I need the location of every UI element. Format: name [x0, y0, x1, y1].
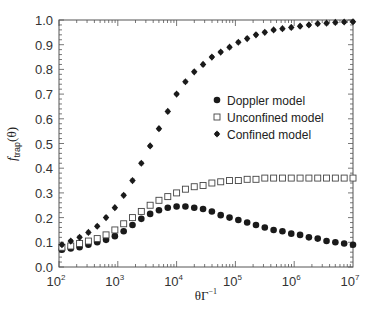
circle-marker [279, 228, 286, 235]
square-marker [324, 175, 330, 181]
square-marker [191, 184, 197, 190]
circle-marker [226, 214, 233, 221]
series-confined-model [59, 18, 357, 248]
diamond-marker [129, 177, 135, 184]
square-marker [227, 178, 233, 184]
diamond-marker [156, 125, 162, 132]
circle-marker [262, 224, 269, 231]
chart: 0.00.10.20.30.40.50.60.70.80.91.01021031… [0, 0, 371, 313]
diamond-marker [226, 44, 232, 51]
x-tick-label: 102 [47, 273, 66, 289]
circle-marker [253, 222, 260, 229]
y-tick-label: 0.0 [35, 260, 53, 275]
axes: 0.00.10.20.30.40.50.60.70.80.91.01021031… [35, 13, 360, 289]
x-tick-label: 104 [164, 273, 183, 289]
diamond-marker [217, 49, 223, 56]
x-tick-label: 106 [282, 273, 301, 289]
circle-marker [332, 239, 339, 246]
y-tick-label: 0.1 [35, 235, 53, 250]
y-axis-title: ftrap(θ) [4, 127, 22, 161]
data-points [59, 18, 357, 253]
circle-marker [288, 230, 295, 237]
circle-marker [270, 227, 277, 234]
diamond-marker [297, 23, 303, 30]
square-marker [271, 175, 277, 181]
circle-marker [147, 211, 154, 218]
diamond-marker [270, 26, 276, 33]
diamond-marker [76, 234, 82, 241]
circle-marker [323, 238, 330, 245]
square-marker [103, 232, 109, 238]
diamond-marker [279, 25, 285, 32]
circle-marker [314, 235, 321, 242]
y-tick-label: 0.7 [35, 87, 53, 102]
square-marker [112, 227, 118, 233]
y-tick-label: 0.5 [35, 137, 53, 152]
square-marker [147, 202, 153, 208]
circle-marker [156, 207, 163, 214]
diamond-marker [85, 229, 91, 236]
square-marker [350, 175, 356, 181]
y-tick-label: 0.6 [35, 112, 53, 127]
circle-marker [164, 204, 171, 211]
square-marker [174, 190, 180, 196]
diamond-marker [253, 31, 259, 38]
plot-frame [59, 20, 353, 267]
diamond-marker [350, 18, 356, 25]
circle-marker [341, 240, 348, 247]
legend-label: Doppler model [227, 94, 305, 108]
square-marker [253, 176, 259, 182]
y-tick-label: 0.9 [35, 38, 53, 53]
circle-marker [200, 206, 207, 213]
legend-label: Confined model [227, 128, 311, 142]
legend-item: Unconfined model [214, 111, 324, 125]
diamond-marker [147, 142, 153, 149]
circle-marker [173, 203, 180, 210]
square-marker [235, 178, 241, 184]
y-tick-label: 1.0 [35, 13, 53, 28]
y-tick-label: 0.3 [35, 186, 53, 201]
legend-item: Confined model [214, 128, 311, 142]
diamond-marker [314, 20, 320, 27]
circle-marker [120, 228, 127, 235]
square-marker [165, 194, 171, 200]
legend-item: Doppler model [214, 94, 305, 108]
diamond-marker [103, 214, 109, 221]
diamond-marker [200, 61, 206, 68]
square-marker [332, 175, 338, 181]
diamond-marker [165, 108, 171, 115]
square-marker [315, 175, 321, 181]
square-marker [297, 175, 303, 181]
diamond-marker [288, 24, 294, 31]
diamond-marker [138, 160, 144, 167]
legend: Doppler modelUnconfined modelConfined mo… [214, 94, 324, 142]
circle-marker [214, 97, 221, 104]
square-marker [262, 175, 268, 181]
square-marker [138, 208, 144, 214]
y-tick-label: 0.8 [35, 62, 53, 77]
diamond-marker [182, 78, 188, 85]
square-marker [341, 175, 347, 181]
square-marker [77, 241, 83, 247]
diamond-marker [341, 18, 347, 25]
x-axis-title: θΓ−1 [195, 287, 217, 303]
diamond-marker [262, 29, 268, 36]
circle-marker [129, 222, 136, 229]
diamond-marker [306, 21, 312, 28]
square-marker [200, 182, 206, 188]
square-marker [214, 114, 220, 120]
square-marker [209, 180, 215, 186]
circle-marker [350, 241, 357, 248]
diamond-marker [235, 39, 241, 46]
circle-marker [244, 219, 251, 226]
square-marker [85, 238, 91, 244]
diamond-marker [191, 68, 197, 75]
circle-marker [112, 233, 119, 240]
x-tick-label: 107 [341, 273, 360, 289]
square-marker [156, 197, 162, 203]
square-marker [218, 179, 224, 185]
square-marker [94, 236, 100, 242]
diamond-marker [214, 130, 220, 137]
square-marker [279, 175, 285, 181]
circle-marker [306, 234, 313, 241]
